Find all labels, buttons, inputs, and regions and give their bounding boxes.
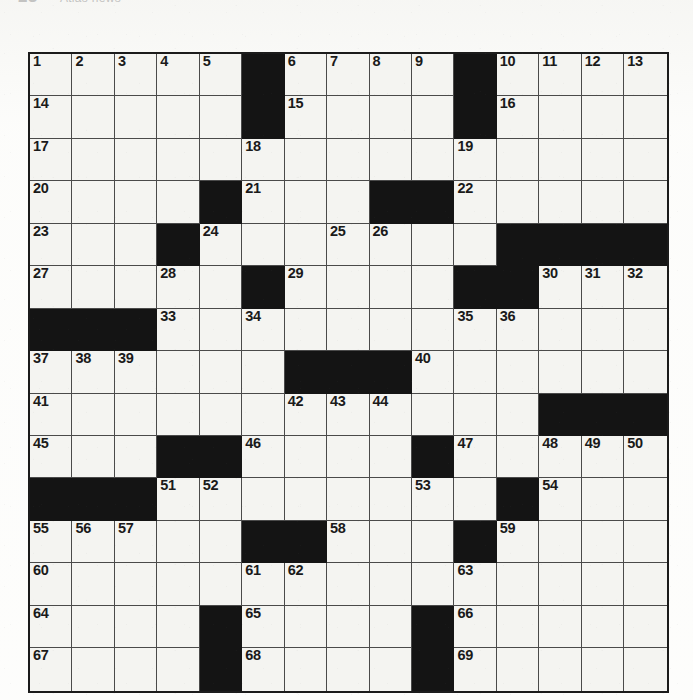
grid-open-cell[interactable]: 68 xyxy=(242,648,284,690)
grid-open-cell[interactable] xyxy=(370,521,412,563)
grid-open-cell[interactable] xyxy=(412,139,454,181)
grid-open-cell[interactable]: 1 xyxy=(30,54,72,96)
grid-open-cell[interactable]: 53 xyxy=(412,478,454,520)
grid-open-cell[interactable]: 23 xyxy=(30,224,72,266)
grid-open-cell[interactable] xyxy=(72,436,114,478)
grid-open-cell[interactable] xyxy=(582,648,624,690)
grid-open-cell[interactable] xyxy=(412,266,454,308)
grid-open-cell[interactable] xyxy=(539,563,581,605)
grid-open-cell[interactable] xyxy=(72,96,114,138)
grid-open-cell[interactable] xyxy=(242,478,284,520)
grid-open-cell[interactable]: 29 xyxy=(285,266,327,308)
grid-open-cell[interactable] xyxy=(72,139,114,181)
grid-open-cell[interactable] xyxy=(370,309,412,351)
grid-open-cell[interactable] xyxy=(539,351,581,393)
grid-open-cell[interactable] xyxy=(157,351,199,393)
grid-open-cell[interactable]: 47 xyxy=(454,436,496,478)
grid-open-cell[interactable] xyxy=(72,606,114,648)
grid-open-cell[interactable]: 66 xyxy=(454,606,496,648)
grid-open-cell[interactable]: 32 xyxy=(624,266,666,308)
grid-open-cell[interactable] xyxy=(497,394,539,436)
grid-open-cell[interactable] xyxy=(624,96,666,138)
grid-open-cell[interactable]: 43 xyxy=(327,394,369,436)
grid-open-cell[interactable] xyxy=(539,521,581,563)
grid-open-cell[interactable]: 6 xyxy=(285,54,327,96)
grid-open-cell[interactable] xyxy=(412,224,454,266)
grid-open-cell[interactable] xyxy=(539,648,581,690)
grid-open-cell[interactable] xyxy=(582,96,624,138)
grid-open-cell[interactable] xyxy=(327,309,369,351)
grid-open-cell[interactable] xyxy=(497,139,539,181)
grid-open-cell[interactable]: 38 xyxy=(72,351,114,393)
grid-open-cell[interactable] xyxy=(497,606,539,648)
grid-open-cell[interactable]: 33 xyxy=(157,309,199,351)
grid-open-cell[interactable] xyxy=(72,181,114,223)
grid-open-cell[interactable] xyxy=(72,648,114,690)
grid-open-cell[interactable] xyxy=(285,606,327,648)
grid-open-cell[interactable] xyxy=(582,563,624,605)
grid-open-cell[interactable] xyxy=(115,224,157,266)
grid-open-cell[interactable]: 54 xyxy=(539,478,581,520)
grid-open-cell[interactable] xyxy=(624,139,666,181)
grid-open-cell[interactable] xyxy=(72,563,114,605)
grid-open-cell[interactable] xyxy=(370,96,412,138)
grid-open-cell[interactable]: 37 xyxy=(30,351,72,393)
grid-open-cell[interactable]: 40 xyxy=(412,351,454,393)
grid-open-cell[interactable] xyxy=(582,139,624,181)
grid-open-cell[interactable] xyxy=(497,181,539,223)
grid-open-cell[interactable] xyxy=(582,606,624,648)
grid-open-cell[interactable] xyxy=(370,266,412,308)
grid-open-cell[interactable] xyxy=(285,181,327,223)
grid-open-cell[interactable]: 30 xyxy=(539,266,581,308)
grid-open-cell[interactable] xyxy=(582,521,624,563)
grid-open-cell[interactable] xyxy=(200,394,242,436)
grid-open-cell[interactable] xyxy=(285,309,327,351)
grid-open-cell[interactable]: 42 xyxy=(285,394,327,436)
grid-open-cell[interactable] xyxy=(539,309,581,351)
grid-open-cell[interactable] xyxy=(115,139,157,181)
grid-open-cell[interactable] xyxy=(497,563,539,605)
grid-open-cell[interactable] xyxy=(327,436,369,478)
grid-open-cell[interactable] xyxy=(242,394,284,436)
grid-open-cell[interactable] xyxy=(370,478,412,520)
grid-open-cell[interactable]: 2 xyxy=(72,54,114,96)
grid-open-cell[interactable]: 25 xyxy=(327,224,369,266)
grid-open-cell[interactable]: 56 xyxy=(72,521,114,563)
grid-open-cell[interactable] xyxy=(115,436,157,478)
grid-open-cell[interactable] xyxy=(115,96,157,138)
grid-open-cell[interactable] xyxy=(327,139,369,181)
grid-open-cell[interactable]: 35 xyxy=(454,309,496,351)
grid-open-cell[interactable]: 14 xyxy=(30,96,72,138)
grid-open-cell[interactable] xyxy=(157,563,199,605)
grid-open-cell[interactable]: 15 xyxy=(285,96,327,138)
grid-open-cell[interactable] xyxy=(582,351,624,393)
grid-open-cell[interactable] xyxy=(412,521,454,563)
grid-open-cell[interactable] xyxy=(157,181,199,223)
grid-open-cell[interactable] xyxy=(624,606,666,648)
grid-open-cell[interactable] xyxy=(157,648,199,690)
grid-open-cell[interactable]: 60 xyxy=(30,563,72,605)
grid-open-cell[interactable] xyxy=(285,139,327,181)
grid-open-cell[interactable]: 51 xyxy=(157,478,199,520)
grid-open-cell[interactable] xyxy=(370,436,412,478)
grid-open-cell[interactable] xyxy=(497,648,539,690)
grid-open-cell[interactable] xyxy=(327,606,369,648)
grid-open-cell[interactable]: 48 xyxy=(539,436,581,478)
grid-open-cell[interactable] xyxy=(539,139,581,181)
grid-open-cell[interactable] xyxy=(582,181,624,223)
grid-open-cell[interactable]: 13 xyxy=(624,54,666,96)
grid-open-cell[interactable] xyxy=(200,309,242,351)
grid-open-cell[interactable] xyxy=(115,648,157,690)
grid-open-cell[interactable] xyxy=(454,224,496,266)
grid-open-cell[interactable] xyxy=(157,394,199,436)
grid-open-cell[interactable]: 5 xyxy=(200,54,242,96)
grid-open-cell[interactable] xyxy=(454,394,496,436)
grid-open-cell[interactable] xyxy=(624,521,666,563)
grid-open-cell[interactable] xyxy=(242,351,284,393)
grid-open-cell[interactable] xyxy=(285,436,327,478)
grid-open-cell[interactable]: 9 xyxy=(412,54,454,96)
grid-open-cell[interactable]: 34 xyxy=(242,309,284,351)
grid-open-cell[interactable] xyxy=(412,563,454,605)
grid-open-cell[interactable] xyxy=(370,606,412,648)
grid-open-cell[interactable]: 22 xyxy=(454,181,496,223)
